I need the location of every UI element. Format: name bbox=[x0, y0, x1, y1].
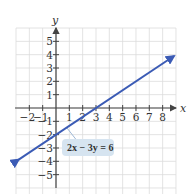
svg-text:5: 5 bbox=[119, 111, 126, 123]
x-axis-label: x bbox=[180, 102, 187, 115]
svg-text:8: 8 bbox=[159, 111, 166, 123]
equation-label: 2x − 3y = 6 bbox=[62, 139, 114, 156]
svg-text:−5: −5 bbox=[38, 169, 53, 181]
svg-text:2: 2 bbox=[46, 75, 53, 87]
svg-text:1: 1 bbox=[46, 89, 53, 101]
svg-text:3: 3 bbox=[93, 111, 100, 123]
svg-text:5: 5 bbox=[46, 35, 53, 47]
svg-text:1: 1 bbox=[66, 111, 73, 123]
svg-text:6: 6 bbox=[133, 111, 140, 123]
svg-text:3: 3 bbox=[46, 62, 53, 74]
svg-text:−4: −4 bbox=[38, 155, 54, 167]
svg-text:7: 7 bbox=[146, 111, 153, 123]
line-graph: −2−11234567854321−1−2−3−4−5 x y 2x − 3y … bbox=[0, 0, 196, 194]
svg-text:−1: −1 bbox=[38, 115, 53, 127]
svg-text:4: 4 bbox=[46, 49, 53, 61]
svg-text:4: 4 bbox=[106, 111, 113, 123]
y-axis-label: y bbox=[51, 14, 59, 27]
equation-text: 2x − 3y = 6 bbox=[67, 142, 113, 153]
svg-text:−3: −3 bbox=[38, 142, 53, 154]
